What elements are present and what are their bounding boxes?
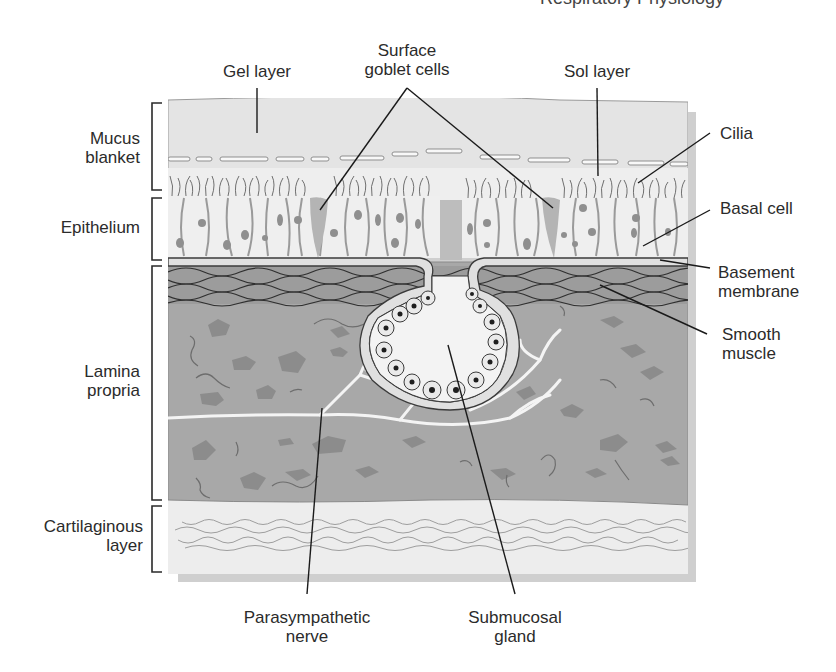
tissue-illustration	[0, 0, 836, 672]
label-basement-membrane: Basement membrane	[718, 263, 799, 301]
label-mucus-blanket: Mucus blanket	[60, 129, 140, 167]
label-parasympathetic-nerve: Parasympathetic nerve	[222, 608, 392, 646]
label-cilia: Cilia	[720, 124, 753, 143]
bracket-lamina-propria	[152, 266, 162, 500]
label-surface-goblet-cells: Surface goblet cells	[337, 41, 477, 79]
bracket-mucus-blanket	[152, 103, 162, 190]
label-sol-layer: Sol layer	[537, 62, 657, 81]
label-epithelium: Epithelium	[30, 218, 140, 237]
label-lamina-propria: Lamina propria	[50, 362, 140, 400]
epithelium-region	[168, 196, 688, 260]
bracket-cartilaginous-layer	[152, 506, 162, 572]
bracket-epithelium	[152, 198, 162, 260]
cartilage-layer	[168, 490, 688, 580]
layer-brackets	[152, 103, 162, 572]
label-submucosal-gland: Submucosal gland	[450, 608, 580, 646]
leader-sol-layer	[597, 88, 598, 176]
label-basal-cell: Basal cell	[720, 199, 793, 218]
label-gel-layer: Gel layer	[197, 62, 317, 81]
label-smooth-muscle: Smooth muscle	[722, 325, 781, 363]
label-cartilaginous-layer: Cartilaginous layer	[10, 517, 143, 555]
airway-wall-diagram: Respiratory Physiology	[0, 0, 836, 672]
